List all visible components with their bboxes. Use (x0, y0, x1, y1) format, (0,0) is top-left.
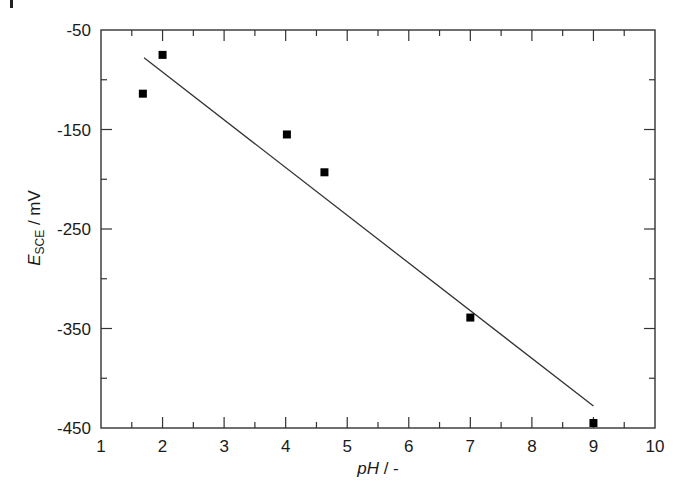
y-axis-label-sub: SCE (33, 230, 47, 255)
y-axis-tick-labels: -50-150-250-350-450 (57, 21, 91, 438)
y-tick-label: -150 (57, 121, 91, 140)
y-tick-label: -350 (57, 320, 91, 339)
y-tick-label: -250 (57, 220, 91, 239)
x-tick-label: 10 (646, 437, 665, 456)
plot-frame (101, 30, 655, 428)
x-axis-label: pH / - (356, 459, 399, 478)
data-point-marker (589, 419, 597, 427)
data-point-marker (159, 51, 167, 59)
x-tick-label: 3 (219, 437, 228, 456)
data-point-marker (320, 168, 328, 176)
x-axis-label-ph: pH (356, 459, 379, 478)
x-tick-label: 4 (281, 437, 290, 456)
linear-fit-line (144, 58, 593, 406)
y-tick-label: -50 (66, 21, 91, 40)
plot-border (101, 30, 655, 428)
x-tick-label: 8 (527, 437, 536, 456)
x-tick-label: 6 (404, 437, 413, 456)
y-axis-label: ESCE / mV (25, 189, 47, 265)
x-tick-label: 7 (466, 437, 475, 456)
chart: 12345678910 -50-150-250-350-450 pH / - E… (0, 0, 680, 503)
x-axis-ticks (132, 30, 624, 428)
y-axis-label-unit: / mV (25, 189, 44, 229)
x-tick-label: 2 (158, 437, 167, 456)
data-point-marker (139, 90, 147, 98)
y-axis-label-main: E (25, 254, 44, 266)
chart-svg: 12345678910 -50-150-250-350-450 pH / - E… (0, 0, 680, 503)
x-tick-label: 9 (589, 437, 598, 456)
fit-line (144, 58, 593, 406)
x-axis-tick-labels: 12345678910 (96, 437, 664, 456)
x-tick-label: 1 (96, 437, 105, 456)
y-axis-ticks (101, 80, 655, 379)
data-point-marker (466, 314, 474, 322)
x-tick-label: 5 (342, 437, 351, 456)
y-tick-label: -450 (57, 419, 91, 438)
data-point-marker (283, 130, 291, 138)
x-axis-label-unit: / - (379, 459, 399, 478)
